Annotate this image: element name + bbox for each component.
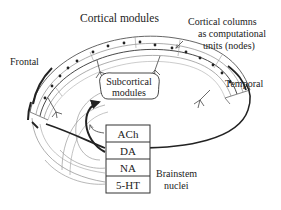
cortical-columns-label-line3: units (nodes): [203, 40, 255, 52]
nucleus-5ht: 5-HT: [116, 179, 140, 191]
nucleus-ach: ACh: [118, 128, 139, 140]
cortical-columns-label-line2: as computational: [198, 28, 266, 39]
nucleus-na: NA: [120, 162, 136, 174]
cortical-modules-label: Cortical modules: [80, 12, 159, 24]
ach-feedback-arrow: [90, 125, 104, 133]
brainstem-to-subcortical-arrow: [86, 102, 105, 152]
brainstem-nuclei-box: ACh DA NA 5-HT: [106, 125, 150, 193]
nucleus-da: DA: [120, 145, 136, 157]
brainstem-label-line2: nuclei: [164, 180, 189, 191]
subcortical-label-line1: Subcortical: [106, 76, 152, 87]
subcortical-label-line2: modules: [112, 87, 146, 98]
cortical-columns-label-line1: Cortical columns: [188, 16, 257, 27]
frontal-label: Frontal: [10, 56, 39, 67]
temporal-label: Temporal: [225, 78, 263, 89]
brain-architecture-diagram: Subcortical modules ACh DA NA 5-HT Corti…: [0, 0, 281, 210]
brainstem-label-line1: Brainstem: [156, 168, 197, 179]
